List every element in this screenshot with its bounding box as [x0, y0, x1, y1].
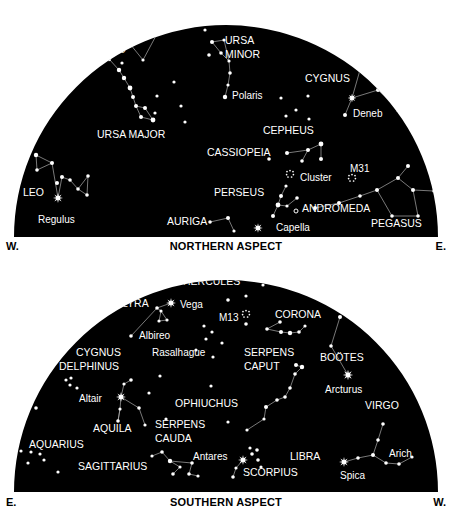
constellation-label-boötes: BOÖTES — [320, 351, 364, 363]
star-dot — [288, 331, 292, 335]
bright-star — [53, 193, 63, 203]
star-dot — [208, 220, 212, 224]
cluster-dot — [292, 171, 294, 173]
constellation-label-caput: CAPUT — [244, 360, 280, 372]
cluster-dot — [243, 316, 245, 318]
star-dot — [183, 120, 186, 123]
star-label-deneb: Deneb — [353, 108, 383, 119]
star-dot — [143, 423, 146, 426]
star-dot — [244, 322, 248, 326]
star-dot — [375, 188, 379, 192]
star-dot — [396, 108, 400, 112]
star-dot — [262, 417, 265, 420]
star-dot — [64, 378, 67, 381]
star-dot — [397, 462, 401, 466]
star-core — [256, 226, 259, 229]
star-dot — [226, 83, 229, 86]
star-dot — [42, 458, 45, 461]
star-dot — [256, 458, 260, 462]
star-dot — [376, 438, 380, 442]
star-dot — [245, 428, 248, 431]
star-dot — [279, 194, 283, 198]
star-dot — [147, 391, 150, 394]
star-dot — [117, 68, 121, 72]
cluster-dot — [355, 178, 357, 180]
constellation-label-sagittarius: SAGITTARIUS — [78, 460, 147, 472]
deep-sky-label-cluster: Cluster — [300, 172, 332, 183]
star-dot — [155, 94, 158, 97]
star-dot — [300, 159, 304, 163]
star-dot — [261, 283, 264, 286]
star-dot — [264, 405, 268, 409]
star-dot — [371, 453, 375, 457]
star-dot — [56, 470, 59, 473]
star-dot — [294, 108, 297, 111]
star-dot — [68, 383, 71, 386]
star-dot — [297, 330, 301, 334]
bright-star — [116, 392, 126, 402]
star-dot — [384, 461, 388, 465]
cluster-dot — [291, 176, 293, 178]
constellation-label-ophiuchus: OPHIUCHUS — [175, 397, 238, 409]
star-dot — [55, 181, 59, 185]
star-dot — [122, 76, 126, 80]
star-dot — [207, 53, 211, 57]
star-dot — [284, 114, 287, 117]
star-label-capella: Capella — [276, 222, 310, 233]
star-label-polaris: Polaris — [232, 90, 263, 101]
southern-sky-map: M13HERCULESLYRACORONACYGNUSDELPHINUSSERP… — [0, 264, 452, 527]
star-dot — [293, 372, 297, 376]
star-dot — [343, 113, 347, 117]
star-label-altair: Altair — [79, 393, 102, 404]
star-dot — [128, 86, 133, 91]
southern-aspect-chart: M13HERCULESLYRACORONACYGNUSDELPHINUSSERP… — [0, 264, 452, 527]
star-dot — [329, 344, 333, 348]
star-dot — [151, 118, 156, 123]
star-dot — [196, 474, 199, 477]
star-dot — [244, 294, 247, 297]
star-dot — [338, 315, 342, 319]
bright-star — [166, 298, 176, 308]
star-dot — [19, 449, 22, 452]
constellation-label-serpens: SERPENS — [244, 346, 294, 358]
star-label-antares: Antares — [193, 451, 227, 462]
star-dot — [168, 459, 172, 463]
star-dot — [150, 454, 153, 457]
star-dot — [300, 365, 304, 369]
star-core — [169, 301, 172, 304]
star-dot — [226, 298, 230, 302]
star-dot — [275, 398, 279, 402]
bright-star — [343, 370, 353, 380]
constellation-label-draco: DRACO — [88, 43, 126, 55]
cluster-dot — [287, 176, 289, 178]
star-dot — [86, 174, 90, 178]
star-dot — [153, 111, 156, 114]
star-dot — [406, 164, 410, 168]
star-dot — [285, 204, 288, 207]
star-dot — [228, 71, 232, 75]
star-dot — [179, 104, 182, 107]
star-dot — [35, 168, 39, 172]
constellation-label-cepheus: CEPHEUS — [263, 124, 314, 136]
star-dot — [307, 117, 310, 120]
star-dot — [209, 384, 212, 387]
star-dot — [202, 324, 205, 327]
star-dot — [156, 30, 159, 33]
constellation-label-hercules: HERCULES — [183, 275, 240, 287]
northern-sky-map: ClusterM31DRACOURSAMINORCYGNUSURSA MAJOR… — [0, 0, 452, 264]
northern-direction-west: W. — [6, 240, 19, 252]
constellation-label-andromeda: ANDROMEDA — [302, 202, 370, 214]
star-dot — [118, 407, 121, 410]
star-dot — [265, 327, 269, 331]
constellation-label-cassiopeia: CASSIOPEIA — [207, 146, 271, 158]
bright-star — [348, 94, 357, 103]
constellation-label-auriga: AURIGA — [167, 215, 207, 227]
star-dot — [185, 19, 188, 22]
star-dot — [124, 37, 128, 41]
constellation-label-minor: MINOR — [225, 48, 260, 60]
star-dot — [120, 61, 123, 64]
star-dot — [203, 28, 206, 31]
star-label-vega: Vega — [180, 299, 203, 310]
star-dot — [38, 452, 41, 455]
star-dot — [69, 376, 72, 379]
